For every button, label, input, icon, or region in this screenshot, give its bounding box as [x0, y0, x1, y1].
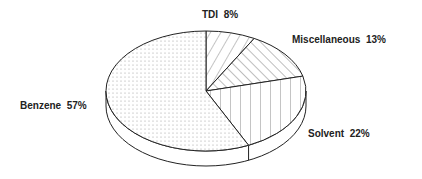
label-solvent: Solvent 22% [308, 128, 370, 139]
pie-chart [0, 0, 422, 179]
label-benzene: Benzene 57% [20, 100, 87, 111]
label-miscellaneous: Miscellaneous 13% [292, 34, 386, 45]
pie-slices [106, 31, 306, 166]
label-tdi: TDI 8% [202, 9, 238, 20]
